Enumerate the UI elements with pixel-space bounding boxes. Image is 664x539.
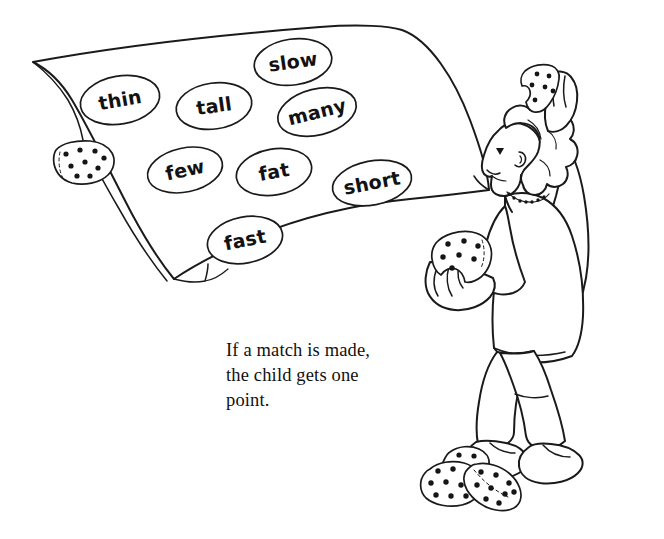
sheet-fold-left [33, 62, 83, 140]
word-oval-slow[interactable]: slow [251, 34, 335, 90]
child-figure [426, 65, 589, 484]
word-oval-group: thin tall slow many few fat [76, 34, 415, 270]
word-oval-many[interactable]: many [273, 80, 362, 144]
word-oval-few[interactable]: few [143, 141, 226, 200]
beanbag-on-sheet-corner[interactable] [54, 141, 114, 184]
word-oval-fat[interactable]: fat [233, 143, 316, 201]
sheet-fold-bottom [174, 264, 208, 282]
illustration-page: thin tall slow many few fat [0, 0, 664, 539]
word-oval-thin[interactable]: thin [76, 69, 163, 130]
shoe-back [519, 444, 583, 484]
sheet-fold-bottom-crease [205, 269, 228, 281]
word-oval-short[interactable]: short [329, 154, 416, 212]
word-oval-tall[interactable]: tall [173, 78, 255, 134]
word-oval-fast[interactable]: fast [203, 210, 286, 270]
line-art-illustration: thin tall slow many few fat [0, 0, 664, 539]
caption-text: If a match is made, the child gets one p… [226, 338, 456, 413]
beanbag-in-lower-hand[interactable] [432, 231, 492, 282]
